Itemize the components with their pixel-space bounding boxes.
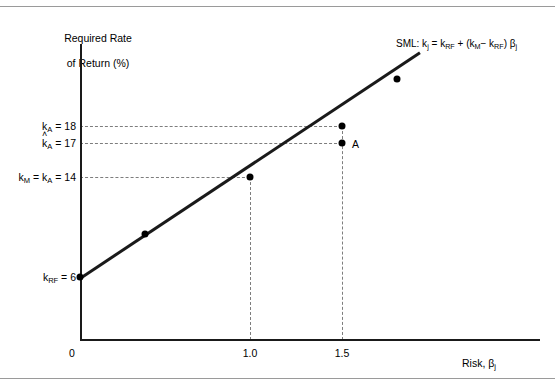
equation-prefix-sub: j: [427, 42, 429, 51]
y-axis-title-line1: Required Rate: [64, 32, 132, 44]
equation-part3-sub: RF: [494, 42, 504, 51]
y-tick-label-18: kA = 18: [42, 120, 80, 132]
x-axis-title-sub: j: [494, 362, 496, 371]
y-tick-17-sub: A: [47, 142, 52, 151]
equation-part2: + (k: [455, 38, 475, 49]
y-tick-6-value: = 6: [58, 271, 76, 283]
y-tick-label-6: kRF = 6: [43, 271, 80, 283]
bottom-divider-rule: [0, 378, 555, 379]
reference-line-14: [80, 177, 250, 178]
y-tick-14-sub2: A: [47, 176, 52, 185]
x-tick-label-0: 0: [69, 347, 75, 359]
stock-a-label: A: [352, 138, 359, 150]
x-tick-label-1.0: 1.0: [243, 347, 258, 359]
y-tick-14-mid: = k: [30, 171, 47, 183]
reference-line-17: [80, 143, 342, 144]
y-axis-title-line2: of Return (%): [67, 57, 129, 69]
equation-part1: = k: [429, 38, 445, 49]
marker-beta-1.5-on-line: [339, 123, 346, 130]
marker-beta-1.8: [394, 76, 401, 83]
x-axis-title: Risk, βj: [462, 357, 496, 369]
reference-line-beta-1.5: [342, 126, 343, 340]
y-tick-14-sub1: M: [24, 176, 30, 185]
sml-equation-annotation: SML: kj = kRF + (kM− kRF) βj: [396, 38, 517, 49]
y-tick-14-value: = 14: [52, 171, 76, 183]
y-tick-17-hat-accent: ˄: [42, 130, 47, 139]
x-axis-line: [80, 339, 540, 341]
marker-beta-1.0: [247, 174, 254, 181]
marker-beta-0.7: [142, 231, 149, 238]
equation-part4-sub: j: [516, 42, 518, 51]
x-axis-title-text: Risk,: [462, 357, 488, 369]
sml-chart-figure: Required Rate of Return (%) SML: kj = kR…: [0, 0, 555, 388]
equation-part4: ) β: [504, 38, 516, 49]
marker-stock-a: [339, 140, 346, 147]
y-tick-label-14: kM = kA = 14: [19, 171, 80, 183]
reference-line-18: [80, 126, 342, 127]
y-tick-18-value: = 18: [52, 120, 76, 132]
y-tick-label-17: k˄A = 17: [42, 137, 80, 149]
equation-prefix: SML: k: [396, 38, 427, 49]
y-tick-17-value: = 17: [52, 137, 76, 149]
reference-line-beta-1.0: [250, 177, 251, 340]
y-axis-title: Required Rate of Return (%): [38, 19, 158, 69]
y-tick-18-sub: A: [47, 125, 52, 134]
equation-part2-sub: M: [474, 42, 480, 51]
x-tick-label-1.5: 1.5: [335, 347, 350, 359]
top-divider-rule: [0, 6, 555, 7]
y-tick-6-sub: RF: [48, 276, 58, 285]
y-axis-line: [80, 44, 82, 341]
equation-part3: − k: [480, 38, 494, 49]
equation-part1-sub: RF: [445, 42, 455, 51]
